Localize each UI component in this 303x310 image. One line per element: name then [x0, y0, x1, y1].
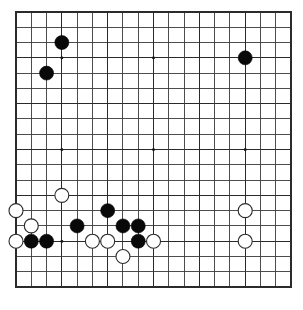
black-stone[interactable]	[131, 234, 145, 248]
board-background	[0, 0, 303, 310]
white-stone[interactable]	[238, 234, 252, 248]
white-stone[interactable]	[116, 249, 130, 263]
black-stone[interactable]	[238, 51, 252, 65]
black-stone[interactable]	[55, 36, 69, 50]
black-stone[interactable]	[131, 219, 145, 233]
star-point	[152, 148, 155, 151]
white-stone[interactable]	[55, 188, 69, 202]
black-stone[interactable]	[101, 204, 115, 218]
white-stone[interactable]	[24, 219, 38, 233]
star-point	[152, 56, 155, 59]
black-stone[interactable]	[70, 219, 84, 233]
white-stone[interactable]	[85, 234, 99, 248]
black-stone[interactable]	[116, 219, 130, 233]
star-point	[244, 148, 247, 151]
black-stone[interactable]	[24, 234, 38, 248]
white-stone[interactable]	[9, 234, 23, 248]
star-point	[60, 56, 63, 59]
star-point	[60, 240, 63, 243]
white-stone[interactable]	[101, 234, 115, 248]
go-board-container[interactable]	[0, 0, 303, 310]
black-stone[interactable]	[40, 66, 54, 80]
black-stone[interactable]	[40, 234, 54, 248]
white-stone[interactable]	[147, 234, 161, 248]
white-stone[interactable]	[238, 204, 252, 218]
go-board-canvas[interactable]	[0, 0, 303, 310]
white-stone[interactable]	[9, 204, 23, 218]
go-diagram-app	[0, 0, 303, 310]
star-point	[60, 148, 63, 151]
